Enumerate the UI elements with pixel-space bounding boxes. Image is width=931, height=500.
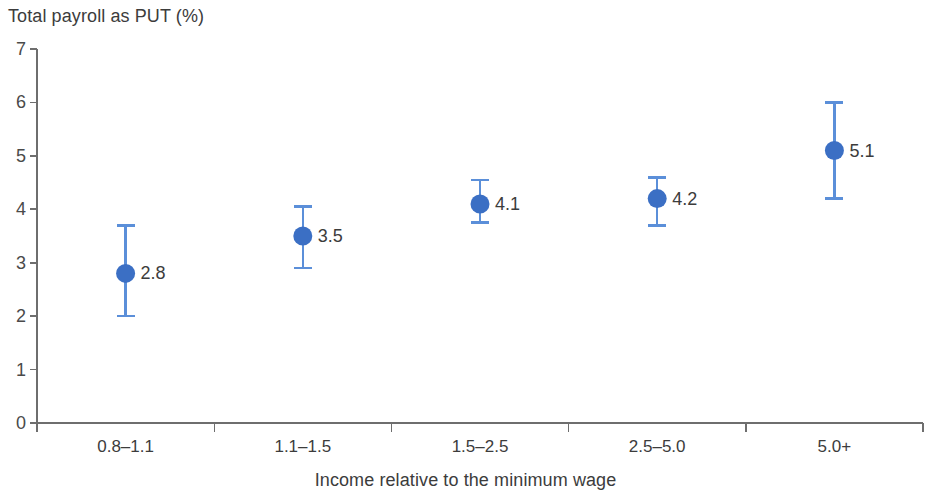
data-point-group [116, 225, 135, 316]
data-point-group [293, 207, 312, 268]
y-axis-tick-label: 4 [4, 199, 26, 220]
data-point-marker [471, 194, 490, 213]
x-axis-tick-label: 0.8–1.1 [97, 437, 154, 457]
y-axis-tick-label: 3 [4, 252, 26, 273]
data-point-marker [116, 264, 135, 283]
data-series-errorbars [116, 102, 844, 316]
data-point-marker [825, 141, 844, 160]
x-axis-tick-label: 1.1–1.5 [274, 437, 331, 457]
data-point-group [648, 177, 667, 225]
data-point-group [471, 180, 490, 223]
y-axis-tick-label: 6 [4, 92, 26, 113]
y-axis-tick-label: 2 [4, 306, 26, 327]
data-point-value-label: 3.5 [318, 226, 343, 247]
y-axis-tick-label: 0 [4, 413, 26, 434]
y-axis-tick-label: 5 [4, 145, 26, 166]
x-axis-tick-label: 1.5–2.5 [452, 437, 509, 457]
chart-figure: Total payroll as PUT (%) 01234567 0.8–1.… [0, 0, 931, 500]
x-axis-tick-label: 5.0+ [818, 437, 852, 457]
data-point-marker [648, 189, 667, 208]
data-point-value-label: 4.1 [495, 193, 520, 214]
y-axis-tick-label: 7 [4, 39, 26, 60]
data-point-group [825, 102, 844, 198]
data-point-value-label: 4.2 [672, 188, 697, 209]
chart-svg [0, 0, 931, 500]
x-axis-title: Income relative to the minimum wage [0, 470, 931, 491]
data-point-value-label: 2.8 [141, 263, 166, 284]
x-axis-tick-label: 2.5–5.0 [629, 437, 686, 457]
plot-area: 01234567 0.8–1.11.1–1.51.5–2.52.5–5.05.0… [0, 0, 931, 500]
data-point-marker [293, 227, 312, 246]
y-axis-tick-label: 1 [4, 359, 26, 380]
axes [30, 49, 923, 432]
data-point-value-label: 5.1 [849, 140, 874, 161]
